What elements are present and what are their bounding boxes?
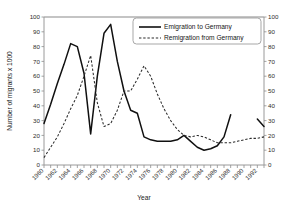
y-tick-label-left: 10 (33, 146, 40, 153)
y-tick-label-left: 100 (30, 13, 41, 20)
x-tick-label: 1964 (57, 166, 72, 181)
x-tick-label: 1990 (230, 166, 245, 181)
y-axis-right: 0102030405060708090100 (264, 13, 279, 168)
y-tick-label-left: 90 (33, 28, 40, 35)
y-tick-label-left: 60 (33, 72, 40, 79)
x-tick-label: 1988 (217, 166, 232, 181)
y-tick-label-left: 50 (33, 87, 40, 94)
y-tick-label-left: 30 (33, 117, 40, 124)
y-tick-label-right: 70 (268, 58, 275, 65)
x-tick-label: 1968 (84, 166, 99, 181)
series-line-emigration (257, 119, 264, 126)
x-tick-label: 1976 (137, 166, 152, 181)
y-tick-label-right: 80 (268, 43, 275, 50)
y-tick-label-right: 50 (268, 87, 275, 94)
y-tick-label-right: 30 (268, 117, 275, 124)
x-tick-label: 1992 (244, 166, 259, 181)
y-tick-label-right: 90 (268, 28, 275, 35)
x-axis-title: Year (137, 194, 151, 201)
y-axis-left: 0102030405060708090100 (30, 13, 44, 168)
y-tick-label-right: 100 (268, 13, 279, 20)
y-tick-label-left: 80 (33, 43, 40, 50)
y-axis-title: Number of migrants x 1000 (6, 51, 14, 131)
x-tick-label: 1970 (97, 166, 112, 181)
y-tick-label-left: 20 (33, 132, 40, 139)
migration-line-chart: 0102030405060708090100 01020304050607080… (0, 0, 289, 206)
x-tick-label: 1984 (190, 166, 205, 181)
y-tick-label-left: 40 (33, 102, 40, 109)
x-tick-label: 1966 (70, 166, 85, 181)
series-line-remigration (44, 55, 264, 157)
x-tick-label: 1978 (150, 166, 165, 181)
y-tick-label-right: 10 (268, 146, 275, 153)
y-tick-label-right: 40 (268, 102, 275, 109)
x-tick-label: 1962 (44, 166, 59, 181)
y-tick-label-right: 60 (268, 72, 275, 79)
legend-label: Remigration from Germany (164, 34, 244, 42)
legend-label: Emigration to Germany (164, 23, 232, 31)
y-tick-label-right: 20 (268, 132, 275, 139)
x-tick-label: 1974 (124, 166, 139, 181)
x-tick-label: 1982 (177, 166, 192, 181)
x-tick-label: 1980 (164, 166, 179, 181)
y-tick-label-left: 70 (33, 58, 40, 65)
x-tick-label: 1960 (30, 166, 45, 181)
chart-canvas: 0102030405060708090100 01020304050607080… (0, 0, 289, 206)
y-tick-label-right: 0 (268, 161, 272, 168)
x-tick-label: 1986 (204, 166, 219, 181)
x-axis: 1960196219641966196819701972197419761978… (30, 165, 264, 181)
x-tick-label: 1972 (110, 166, 125, 181)
chart-legend: Emigration to GermanyRemigration from Ge… (133, 18, 261, 44)
